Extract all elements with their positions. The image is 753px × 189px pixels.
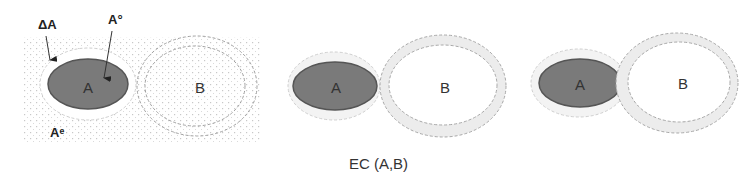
- diagram-caption: EC (A,B): [0, 155, 753, 172]
- caption-text: EC (A,B): [349, 155, 408, 172]
- panel-2-label-b: B: [440, 79, 450, 96]
- interior-label: A°: [108, 12, 123, 27]
- exterior-label: Aᵉ: [50, 125, 64, 140]
- panel-2-label-a: A: [331, 79, 341, 96]
- panel-3-region-b: [616, 33, 738, 133]
- panel-1-label-b: B: [195, 79, 205, 96]
- panel-3-label-a: A: [575, 76, 585, 93]
- panel-1-label-a: A: [83, 79, 93, 96]
- panel-3-label-b: B: [678, 75, 688, 92]
- boundary-label: ΔA: [38, 17, 57, 32]
